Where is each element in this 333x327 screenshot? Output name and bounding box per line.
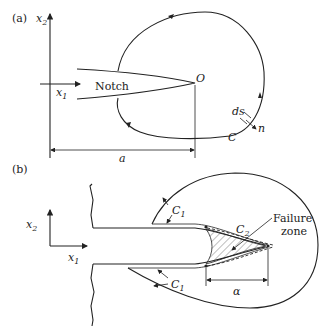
ds-mark-1 — [244, 112, 251, 118]
axis-x2-label: x2 — [36, 12, 47, 27]
normal-vector-n — [246, 120, 256, 129]
axis-x1-label-b: x1 — [68, 251, 79, 266]
c1-top-label: C1 — [172, 204, 186, 219]
panel-a-label: (a) — [12, 12, 27, 25]
point-upper — [204, 225, 207, 228]
notch-label: Notch — [95, 80, 129, 93]
ds-mark-2 — [240, 118, 247, 124]
c1-bottom-label: C1 — [171, 278, 185, 293]
panel-a: (a) x2 x1 Notch O ds n C a — [12, 12, 265, 165]
failure-zone-label-1: Failure — [273, 212, 312, 225]
contour-arrow-right — [258, 92, 262, 98]
body-edge-top — [90, 184, 93, 228]
dimension-a-label: a — [119, 152, 126, 165]
c1-bottom-leader-1 — [158, 270, 168, 278]
notch-contour-diagram: (a) x2 x1 Notch O ds n C a (b) x2 — [0, 0, 333, 327]
origin-label: O — [196, 72, 205, 85]
ds-label: ds — [232, 105, 245, 118]
axis-x2-label-b: x2 — [26, 218, 37, 233]
alpha-label: α — [233, 285, 241, 298]
c2-label: C2 — [236, 223, 250, 238]
body-edge-bottom — [91, 264, 94, 326]
contour-label: C — [228, 131, 237, 144]
point-lower — [204, 264, 207, 267]
point-tip — [266, 244, 269, 247]
axis-x1-label: x1 — [56, 86, 67, 101]
failure-zone-label-2: zone — [281, 225, 307, 238]
panel-b: (b) x2 x1 C1 C1 C2 — [12, 163, 318, 326]
panel-b-label: (b) — [12, 163, 28, 176]
normal-label: n — [258, 122, 265, 135]
